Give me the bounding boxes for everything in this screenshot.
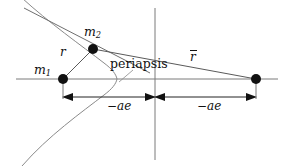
empty-focus-dot [251, 74, 261, 84]
dimension-arrow-left-start [62, 93, 73, 101]
periapsis-leader-line [119, 70, 133, 82]
label-m1-base: m [34, 62, 46, 77]
hyperbola-branch-curve [22, 0, 117, 166]
label-ae-left: −ae [107, 100, 131, 112]
label-r-bar: r [190, 50, 196, 63]
label-r-bar-base: r [190, 50, 196, 63]
label-m2: m2 [84, 26, 101, 39]
label-m1-subscript: 1 [46, 68, 51, 78]
label-m2-base: m [84, 24, 96, 39]
hyperbolic-orbit-figure: m1 m2 r r periapsis −ae −ae [0, 0, 287, 166]
m1-focus-dot [58, 74, 68, 84]
m2-body-dot [88, 44, 98, 54]
label-m2-subscript: 2 [96, 30, 101, 40]
label-periapsis: periapsis [110, 58, 168, 71]
radius-vector-r [63, 49, 93, 79]
dimension-arrow-right-end [246, 93, 257, 101]
figure-canvas [0, 0, 287, 166]
label-r: r [60, 46, 66, 58]
label-m1: m1 [34, 64, 51, 77]
label-ae-right: −ae [197, 100, 221, 112]
dimension-arrow-right-start [154, 93, 165, 101]
